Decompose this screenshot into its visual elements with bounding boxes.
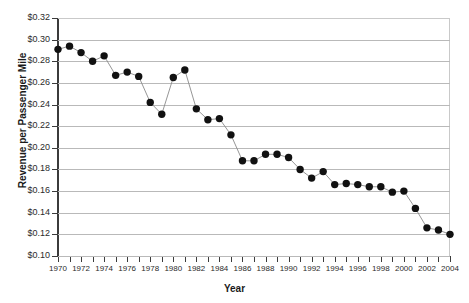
x-axis-tick-mark [93,257,94,262]
x-axis-tick-mark [219,257,220,262]
data-point [158,111,165,118]
x-axis-tick-mark [289,257,290,262]
y-axis-tick-label: $0.24 [6,99,50,109]
x-axis-tick-mark [266,257,267,262]
y-axis-tick-label: $0.14 [6,207,50,217]
x-axis-tick-mark [415,257,416,262]
y-axis-tick-label: $0.18 [6,163,50,173]
data-point [112,72,119,79]
x-axis-tick-mark [58,257,59,262]
data-point [100,52,107,59]
data-point [147,99,154,106]
data-point [250,157,257,164]
data-point [296,166,303,173]
data-point [319,168,326,175]
data-point [435,226,442,233]
data-point [354,181,361,188]
data-series [58,18,450,256]
revenue-per-passenger-mile-chart: Revenue per Passenger Mile $0.10$0.12$0.… [0,0,469,303]
x-axis-tick-mark [404,257,405,262]
data-point [193,105,200,112]
data-point [66,42,73,49]
x-axis-tick-mark [185,257,186,262]
y-axis-tick-label: $0.32 [6,12,50,22]
data-point [331,181,338,188]
x-axis-tick-mark [427,257,428,262]
data-point [170,74,177,81]
x-axis-tick-mark [231,257,232,262]
x-axis-tick-mark [392,257,393,262]
data-point [273,151,280,158]
data-point [89,58,96,65]
y-axis-tick-mark [52,148,58,149]
y-axis-tick-label: $0.22 [6,120,50,130]
x-axis-tick-mark [450,257,451,262]
plot-area [58,18,450,256]
x-axis-tick-mark [242,257,243,262]
x-axis-tick-mark [139,257,140,262]
data-point [77,49,84,56]
x-axis-tick-mark [358,257,359,262]
data-point [389,188,396,195]
x-axis-tick-mark [369,257,370,262]
x-axis-tick-mark [162,257,163,262]
data-point [54,46,61,53]
x-axis-tick-mark [323,257,324,262]
y-axis-tick-label: $0.26 [6,77,50,87]
x-axis-title: Year [0,283,469,294]
x-axis-tick-mark [381,257,382,262]
x-axis-tick-mark [254,257,255,262]
y-axis-tick-mark [52,213,58,214]
y-axis-tick-mark [52,18,58,19]
data-point [216,115,223,122]
x-axis-tick-mark [150,257,151,262]
y-axis-tick-label: $0.28 [6,55,50,65]
y-axis-tick-mark [52,40,58,41]
y-axis-tick-mark [52,126,58,127]
x-axis-tick-mark [312,257,313,262]
x-axis-tick-mark [438,257,439,262]
x-axis-tick-label: 2004 [430,264,469,273]
y-axis-tick-label: $0.10 [6,250,50,260]
data-point [227,131,234,138]
x-axis-tick-mark [127,257,128,262]
data-point [135,73,142,80]
data-point [377,183,384,190]
x-axis-tick-mark [70,257,71,262]
data-point [412,205,419,212]
y-axis-tick-mark [52,105,58,106]
data-point [123,68,130,75]
data-point [285,154,292,161]
data-point [181,66,188,73]
data-point [308,174,315,181]
data-point [366,183,373,190]
x-axis-tick-mark [208,257,209,262]
x-axis-tick-mark [335,257,336,262]
data-point [446,231,453,238]
y-axis-tick-label: $0.30 [6,34,50,44]
x-axis-tick-mark [300,257,301,262]
data-point [204,116,211,123]
x-axis-tick-mark [81,257,82,262]
y-axis-tick-mark [52,169,58,170]
x-axis-tick-mark [173,257,174,262]
y-axis-tick-mark [52,191,58,192]
data-point [262,151,269,158]
data-point [343,180,350,187]
y-axis-tick-label: $0.16 [6,185,50,195]
data-point [423,224,430,231]
x-axis-tick-mark [196,257,197,262]
data-point [400,187,407,194]
x-axis-tick-mark [346,257,347,262]
y-axis-tick-mark [52,83,58,84]
x-axis-tick-mark [116,257,117,262]
y-axis-tick-mark [52,234,58,235]
x-axis-tick-mark [104,257,105,262]
x-axis-tick-mark [277,257,278,262]
y-axis-tick-mark [52,61,58,62]
data-point [239,157,246,164]
y-axis-tick-label: $0.12 [6,228,50,238]
y-axis-tick-label: $0.20 [6,142,50,152]
